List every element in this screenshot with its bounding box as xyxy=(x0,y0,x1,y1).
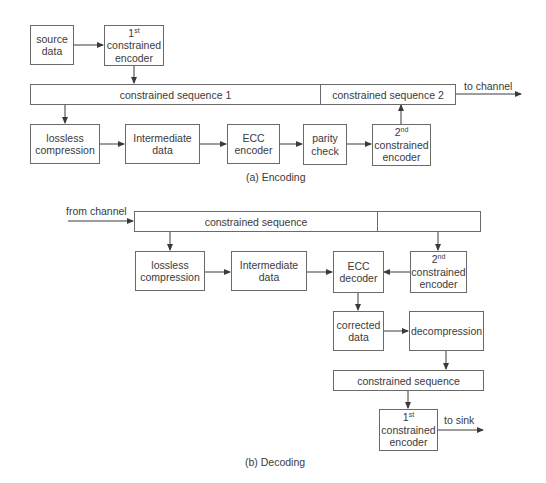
decoding-seq-label: constrained sequence xyxy=(205,216,308,228)
lossless-label-1: lossless xyxy=(46,132,83,145)
dec-lossless-label-2: compression xyxy=(140,271,200,284)
parity-check-box: parity check xyxy=(303,124,347,165)
output-seq-label: constrained sequence xyxy=(357,375,460,387)
ecc-dec-label-1: ECC xyxy=(347,260,369,273)
corrected-data-box: corrected data xyxy=(333,311,384,351)
decoding-constrained-sequence-bar: constrained sequence xyxy=(134,211,378,232)
seq1-label: constrained sequence 1 xyxy=(120,89,232,101)
source-data-label-2: data xyxy=(42,45,62,58)
lossless-label-2: compression xyxy=(35,144,95,157)
output-constrained-sequence-bar: constrained sequence xyxy=(333,370,484,391)
dec-second-encoder-label-2: encoder xyxy=(420,278,458,291)
decoding-first-constrained-encoder-box: 1st constrained encoder xyxy=(379,409,438,451)
constrained-sequence-2-bar: constrained sequence 2 xyxy=(320,84,456,105)
to-sink-label: to sink xyxy=(444,414,474,426)
second-encoder-ordinal: 2nd xyxy=(395,126,409,139)
from-channel-label: from channel xyxy=(66,205,127,217)
dec-second-encoder-label-1: constrained xyxy=(411,266,465,279)
seq2-label: constrained sequence 2 xyxy=(332,89,444,101)
dec-intermediate-label-1: Intermediate xyxy=(240,259,298,272)
source-data-box: source data xyxy=(30,25,74,65)
second-constrained-encoder-box: 2nd constrained encoder xyxy=(372,124,431,166)
second-encoder-label-2: encoder xyxy=(383,151,421,164)
corrected-label-1: corrected xyxy=(337,319,381,332)
parity-label-1: parity xyxy=(312,132,338,145)
constrained-sequence-1-bar: constrained sequence 1 xyxy=(30,84,321,105)
source-data-label-1: source xyxy=(36,33,68,46)
decompression-box: decompression xyxy=(409,311,484,351)
connector-arrows xyxy=(0,0,546,483)
decoding-intermediate-data-box: Intermediate data xyxy=(231,251,307,291)
encoding-caption: (a) Encoding xyxy=(246,171,306,183)
dec-first-encoder-label-1: constrained xyxy=(381,424,435,437)
decompression-label: decompression xyxy=(411,325,482,338)
ecc-decoder-box: ECC decoder xyxy=(333,251,384,293)
dec-first-encoder-label-2: encoder xyxy=(390,436,428,449)
first-encoder-label-2: encoder xyxy=(115,52,153,65)
lossless-compression-box: lossless compression xyxy=(30,124,100,164)
intermediate-label-1: Intermediate xyxy=(133,132,191,145)
second-encoder-label-1: constrained xyxy=(374,139,428,152)
corrected-label-2: data xyxy=(348,331,368,344)
first-encoder-ordinal: 1st xyxy=(128,27,139,40)
decoding-caption: (b) Decoding xyxy=(245,456,305,468)
first-constrained-encoder-box: 1st constrained encoder xyxy=(104,25,164,66)
intermediate-label-2: data xyxy=(152,144,172,157)
dec-intermediate-label-2: data xyxy=(259,271,279,284)
decoding-second-constrained-encoder-box: 2nd constrained encoder xyxy=(410,251,467,293)
decoding-lossless-compression-box: lossless compression xyxy=(135,251,205,291)
dec-lossless-label-1: lossless xyxy=(151,259,188,272)
intermediate-data-box: Intermediate data xyxy=(125,124,200,164)
to-channel-label: to channel xyxy=(464,80,512,92)
ecc-dec-label-2: decoder xyxy=(340,272,378,285)
decoding-sequence-right-segment xyxy=(377,211,481,232)
ecc-label-1: ECC xyxy=(242,132,264,145)
dec-second-encoder-ordinal: 2nd xyxy=(432,253,446,266)
ecc-encoder-box: ECC encoder xyxy=(227,124,280,164)
parity-label-2: check xyxy=(311,145,338,158)
ecc-label-2: encoder xyxy=(235,144,273,157)
dec-first-encoder-ordinal: 1st xyxy=(403,411,414,424)
first-encoder-label-1: constrained xyxy=(107,39,161,52)
